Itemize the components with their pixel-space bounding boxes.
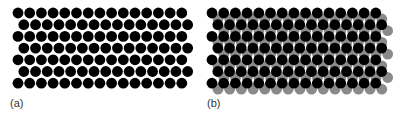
atom-dot [30,43,41,54]
atom-dot [306,66,317,77]
atom-dot [265,78,276,89]
atom-dot [294,43,305,54]
atom-dot [71,8,82,19]
atom-dot [135,66,146,77]
atom-dot [71,78,82,89]
atom-dot [106,31,117,42]
atom-dot [341,19,352,30]
atom-dot [218,54,229,65]
atom-dot [212,66,223,77]
atom-dot [89,66,100,77]
atom-dot [259,43,270,54]
atom-dot [95,31,106,42]
atom-dot [77,19,88,30]
atom-dot [24,78,35,89]
atom-dot [212,43,223,54]
atom-dot [176,54,187,65]
atom-dot [283,19,294,30]
atom-dot [42,43,53,54]
atom-dot [42,66,53,77]
atom-dot [48,78,59,89]
atom-dot [324,8,335,19]
atom-dot [294,66,305,77]
atom-dot [329,43,340,54]
atom-dot [65,19,76,30]
atom-dot [118,8,129,19]
atom-dot [24,31,35,42]
atom-dot [347,78,358,89]
atom-dot [30,19,41,30]
atom-dot [341,43,352,54]
atom-dot [248,19,259,30]
atom-dot [36,8,47,19]
atom-dot [153,54,164,65]
atom-dot [124,43,135,54]
atom-dot [159,66,170,77]
atom-dot [24,54,35,65]
atom-dot [153,8,164,19]
atom-dot [77,43,88,54]
atom-dot [42,19,53,30]
atom-dot [207,78,218,89]
atom-dot [106,8,117,19]
atom-dot [359,31,370,42]
panel-a-monolayer-lattice [13,8,193,89]
atom-dot [353,43,364,54]
atom-dot [130,8,141,19]
atom-dot [318,66,329,77]
atom-dot [95,54,106,65]
atom-dot [165,31,176,42]
lattice-figure [0,0,404,118]
atom-dot [289,54,300,65]
atom-dot [218,8,229,19]
atom-dot [312,78,323,89]
atom-dot [207,31,218,42]
atom-dot [54,43,65,54]
atom-dot [242,54,253,65]
atom-dot [359,54,370,65]
atom-dot [300,8,311,19]
atom-dot [335,31,346,42]
atom-dot [300,31,311,42]
atom-dot [347,54,358,65]
atom-dot [18,66,29,77]
atom-dot [171,43,182,54]
atom-dot [230,31,241,42]
atom-dot [259,19,270,30]
atom-dot [224,43,235,54]
atom-dot [224,66,235,77]
panel-a-label: (a) [10,98,23,109]
atom-dot [112,19,123,30]
atom-dot [335,78,346,89]
atom-dot [141,8,152,19]
atom-dot [77,66,88,77]
atom-dot [95,78,106,89]
atom-dot [312,8,323,19]
atom-dot [18,43,29,54]
atom-dot [153,78,164,89]
atom-dot [59,31,70,42]
atom-dot [318,43,329,54]
atom-dot [230,78,241,89]
atom-dot [370,8,381,19]
atom-dot [71,54,82,65]
atom-dot [165,78,176,89]
atom-dot [335,54,346,65]
atom-dot [171,66,182,77]
atom-dot [236,66,247,77]
atom-dot [106,78,117,89]
atom-dot [159,43,170,54]
atom-dot [347,8,358,19]
atom-dot [283,43,294,54]
atom-dot [30,66,41,77]
atom-dot [165,8,176,19]
atom-dot [71,31,82,42]
atom-dot [147,43,158,54]
atom-dot [294,19,305,30]
atom-dot [48,54,59,65]
atom-dot [100,66,111,77]
atom-dot [353,66,364,77]
black-lattice [13,8,193,89]
atom-dot [265,54,276,65]
atom-dot [242,8,253,19]
